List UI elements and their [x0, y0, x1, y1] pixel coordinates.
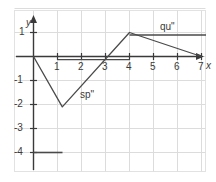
y-tick-label-minus-1: -1: [14, 75, 23, 85]
y-axis-label: y: [26, 18, 31, 28]
qu-curve-label: qu": [160, 22, 175, 32]
y-tick-label-minus-2: -2: [14, 99, 23, 109]
x-tick-label-2: 2: [78, 62, 84, 72]
y-tick-label-minus-3: -3: [14, 123, 23, 133]
coordinate-plot-figure: y x 1 -1 -2 -3 -4 1 2 3 4 5 6 7 sp" qu": [0, 0, 216, 182]
x-tick-label-3: 3: [102, 62, 108, 72]
x-tick-label-7: 7: [198, 62, 204, 72]
x-tick-label-4: 4: [126, 62, 132, 72]
x-tick-label-5: 5: [150, 62, 156, 72]
x-tick-label-1: 1: [54, 62, 60, 72]
y-tick-label-1: 1: [19, 27, 25, 37]
plot-canvas: [0, 0, 216, 182]
x-tick-label-6: 6: [174, 62, 180, 72]
sp-curve-label: sp": [80, 90, 94, 100]
y-tick-label-minus-4: -4: [14, 147, 23, 157]
x-axis-label: x: [206, 61, 211, 71]
